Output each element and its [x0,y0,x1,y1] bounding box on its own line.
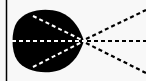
diagram-canvas [0,0,146,81]
